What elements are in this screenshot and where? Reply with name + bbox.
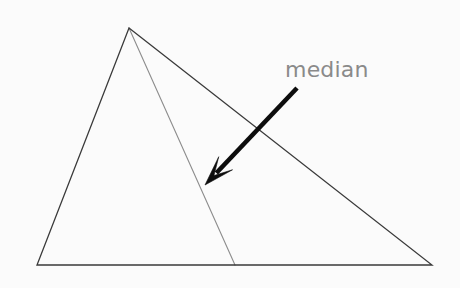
median-label: median xyxy=(285,57,369,82)
diagram-canvas: median xyxy=(0,0,460,288)
median-line xyxy=(129,28,235,265)
geometry-figure: median xyxy=(0,0,460,288)
pointer-arrow xyxy=(205,88,297,185)
arrow-shaft xyxy=(216,88,297,173)
main-triangle xyxy=(37,28,432,265)
